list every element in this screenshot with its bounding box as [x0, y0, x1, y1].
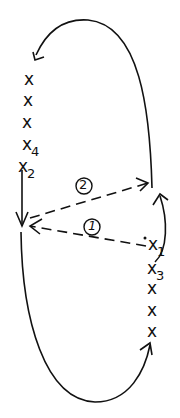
right-point: x	[147, 302, 157, 319]
right-point: x	[147, 280, 157, 297]
left-point: x	[24, 71, 34, 88]
left-point: x	[22, 114, 32, 131]
x1-subscript: 1	[157, 244, 165, 259]
top-arc	[36, 20, 152, 188]
dashed-arrow-2	[30, 183, 148, 218]
bottom-arrowhead	[140, 343, 152, 355]
point-x3: x3	[147, 260, 165, 277]
point-x4: x4	[22, 136, 40, 153]
left-point: x	[23, 92, 33, 109]
bottom-arc	[21, 232, 150, 402]
right-point: x	[147, 323, 157, 340]
arrow-label-2: 2	[79, 178, 87, 191]
x2-subscript: 2	[27, 166, 35, 181]
x1-dot	[144, 237, 147, 240]
top-arrowhead	[33, 52, 44, 60]
dashed-arrow-1-head	[30, 219, 42, 234]
point-x2: x2	[18, 158, 36, 175]
x3-subscript: 3	[156, 268, 164, 283]
orbit-diagram	[0, 0, 180, 418]
arrow-label-1: 1	[88, 219, 96, 232]
point-x1: x1	[148, 236, 166, 253]
x4-subscript: 4	[31, 144, 39, 159]
